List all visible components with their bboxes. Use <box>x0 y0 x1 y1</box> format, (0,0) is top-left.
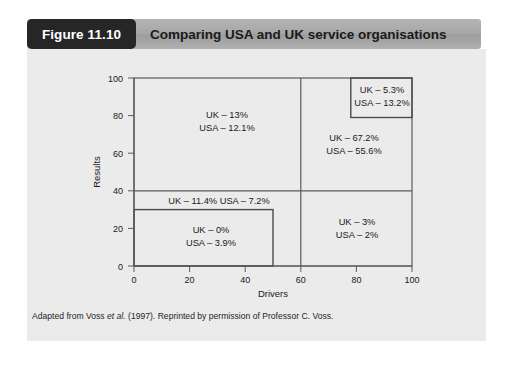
region-uk-label: UK – 67.2% <box>329 133 379 143</box>
region-combined-label: UK – 11.4% USA – 7.2% <box>168 196 270 206</box>
y-axis-title: Results <box>91 156 102 188</box>
x-tick-label: 100 <box>404 275 419 285</box>
region-label-band-left: UK – 11.4% USA – 7.2% <box>168 196 270 206</box>
figure-number-badge: Figure 11.10 <box>27 19 136 49</box>
region-label-bottom-left-inner: UK – 0% USA – 3.9% <box>186 225 236 248</box>
y-tick-label: 40 <box>113 186 123 196</box>
footnote-suffix: (1997). Reprinted by permission of Profe… <box>126 311 334 321</box>
y-axis: 100 80 60 40 20 0 Results <box>91 74 134 272</box>
x-tick-label: 40 <box>240 275 250 285</box>
figure-screenshot: Figure 11.10 Comparing USA and UK servic… <box>0 0 513 371</box>
region-uk-label: UK – 0% <box>193 225 230 235</box>
figure-panel: 100 80 60 40 20 0 Results <box>27 49 486 341</box>
x-tick-label: 20 <box>185 275 195 285</box>
region-usa-label: USA – 2% <box>336 230 378 240</box>
x-axis: 0 20 40 60 80 100 Drivers <box>131 266 419 299</box>
region-usa-label: USA – 12.1% <box>199 123 254 133</box>
x-axis-title: Drivers <box>258 288 288 299</box>
region-label-bottom-right: UK – 3% USA – 2% <box>336 217 378 240</box>
figure-title: Comparing USA and UK service organisatio… <box>150 19 447 49</box>
region-usa-label: USA – 13.2% <box>354 98 409 108</box>
y-tick-label: 80 <box>113 111 123 121</box>
region-label-top-right-inner: UK – 5.3% USA – 13.2% <box>354 85 409 108</box>
region-uk-label: UK – 5.3% <box>360 85 404 95</box>
footnote-italic: et al. <box>107 311 126 321</box>
region-usa-label: USA – 55.6% <box>326 146 381 156</box>
region-label-top-right-outer: UK – 67.2% USA – 55.6% <box>326 133 381 156</box>
x-tick-label: 60 <box>296 275 306 285</box>
region-uk-label: UK – 3% <box>339 217 376 227</box>
chart-area: 100 80 60 40 20 0 Results <box>27 49 486 341</box>
x-tick-label: 80 <box>351 275 361 285</box>
chart-svg: 100 80 60 40 20 0 Results <box>27 49 486 341</box>
y-tick-label: 100 <box>108 74 123 84</box>
figure-number-label: Figure 11.10 <box>42 27 121 42</box>
y-tick-label: 20 <box>113 224 123 234</box>
footnote-prefix: Adapted from Voss <box>32 311 107 321</box>
region-usa-label: USA – 3.9% <box>186 238 236 248</box>
y-tick-label: 0 <box>118 262 123 272</box>
region-label-top-left: UK – 13% USA – 12.1% <box>199 110 254 133</box>
y-tick-label: 60 <box>113 149 123 159</box>
figure-source-note: Adapted from Voss et al. (1997). Reprint… <box>32 311 472 321</box>
x-tick-label: 0 <box>131 275 136 285</box>
region-uk-label: UK – 13% <box>206 110 248 120</box>
